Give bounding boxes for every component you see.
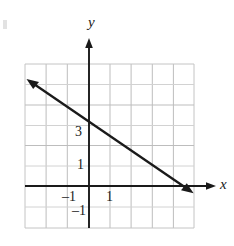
coordinate-plane-figure — [0, 0, 234, 246]
y-axis-arrowhead — [85, 38, 93, 48]
y-axis — [85, 38, 93, 228]
y-tick-label-1: 1 — [77, 158, 84, 172]
y-axis-label: y — [88, 15, 95, 30]
x-tick-label-1: 1 — [106, 190, 113, 204]
graph-screenshot: y x 3 1 –1 –1 1 — [0, 0, 234, 246]
x-axis-arrowhead — [206, 182, 216, 190]
x-tick-label-negative-1: –1 — [62, 190, 76, 204]
y-tick-label-negative-1: –1 — [72, 204, 86, 218]
x-axis-label: x — [220, 177, 227, 192]
y-tick-label-3: 3 — [75, 125, 82, 139]
